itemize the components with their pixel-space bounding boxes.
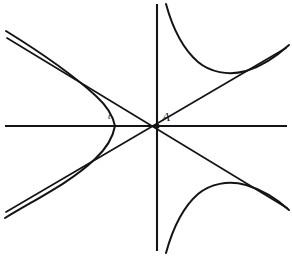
hyperbola-upper-right-branch: [166, 4, 289, 73]
hyperbola-left-branch: [5, 31, 115, 218]
figure-canvas: [0, 0, 292, 257]
asymptote-descending: [7, 38, 287, 208]
vertex-label-t: t: [108, 112, 111, 121]
origin-point-dot: [154, 123, 159, 128]
origin-label-A: A: [162, 110, 170, 123]
asymptote-ascending: [6, 48, 286, 212]
hyperbola-figure: A t: [0, 0, 292, 257]
hyperbola-lower-right-branch: [166, 183, 289, 253]
hyperbola-upper-right-group: [166, 4, 289, 73]
hyperbola-left-group: [5, 31, 115, 218]
hyperbola-lower-right-group: [166, 183, 289, 253]
axes-group: [5, 4, 287, 251]
